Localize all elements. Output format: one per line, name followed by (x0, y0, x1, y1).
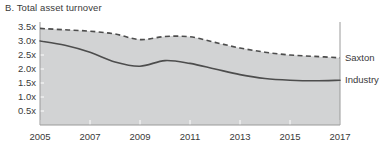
x-tick-label: 2005 (20, 131, 60, 142)
y-tick-label: 3.0x (2, 36, 36, 46)
y-tick-label: 0.5x (2, 106, 36, 116)
x-tick-label: 2007 (70, 131, 110, 142)
x-tick-label: 2017 (320, 131, 360, 142)
series-label-saxton: Saxton (345, 52, 375, 63)
x-tick-label: 2009 (120, 131, 160, 142)
y-tick-label: 3.5x (2, 22, 36, 32)
x-tick-label: 2011 (170, 131, 210, 142)
y-tick-label: 1.5x (2, 78, 36, 88)
series-label-industry: Industry (345, 74, 379, 85)
x-tick-label: 2013 (220, 131, 260, 142)
chart-figure: B. Total asset turnover 3.5x3.0x2.5x2.0x… (0, 0, 381, 156)
y-tick-label: 2.5x (2, 50, 36, 60)
area-fill (40, 28, 340, 125)
y-tick-label: 1.0x (2, 92, 36, 102)
y-tick-label: 2.0x (2, 64, 36, 74)
x-tick-label: 2015 (270, 131, 310, 142)
